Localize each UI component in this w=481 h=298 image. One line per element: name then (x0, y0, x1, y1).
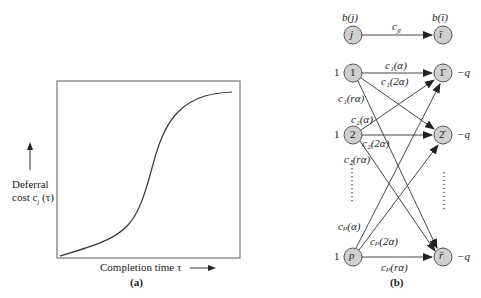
y-axis-label-arg: (τ) (42, 191, 54, 203)
node-1-supply: 1 (334, 66, 340, 78)
node-rbar-label: r̄ (439, 249, 443, 261)
panel-b-label: (b) (390, 276, 403, 288)
plot-frame (57, 81, 240, 258)
deferral-cost-curve (60, 92, 232, 256)
node-p-supply: 1 (334, 250, 340, 262)
legend-arc-cost: cjī (392, 20, 401, 35)
node-1-label: 1 (350, 66, 356, 78)
legend-source-node: j (350, 28, 353, 40)
y-axis-label-text: cost c (12, 191, 37, 203)
x-axis-arrow-head (208, 265, 216, 271)
legend-source-supply: b(j) (342, 11, 358, 23)
node-2bar-label: 2̄ (439, 128, 445, 140)
node-rbar-demand: −q (457, 250, 470, 262)
node-2-label: 2 (350, 128, 356, 140)
arc-label-cp-alpha: cₚ(α) (338, 220, 360, 233)
arc-cost-sub: jī (397, 27, 401, 35)
legend-sink-node: ī (439, 28, 442, 40)
y-axis-label-sub: j (37, 198, 39, 206)
node-2bar-demand: −q (457, 128, 470, 140)
arc-label-c2-ralpha: c₂(rα) (344, 153, 370, 165)
arc-label-cp-ralpha: cₚ(rα) (381, 261, 408, 274)
ellipsis-dots (352, 160, 444, 212)
arc-label-c1-ralpha: c₁(rα) (338, 92, 364, 104)
panel-a-label: (a) (130, 276, 143, 288)
node-1bar-demand: −q (457, 66, 470, 78)
y-axis-label-line1: Deferral (12, 178, 49, 190)
y-axis-label-line2: cost cj (τ) (12, 191, 54, 206)
arc-label-c2-2alpha: c₂(2α) (362, 137, 389, 149)
arc-label-c1-2alpha: c₁(2α) (381, 75, 408, 87)
x-axis-label: Completion time τ (100, 261, 181, 273)
arc-label-c1-alpha: c₁(α) (385, 59, 407, 71)
y-axis-arrow-head (27, 142, 33, 150)
network-arcs (356, 73, 440, 257)
node-p-label: p (349, 249, 355, 261)
node-2-supply: 1 (334, 128, 340, 140)
arc-label-c2-alpha: c₂(α) (351, 113, 373, 125)
deferral-cost-plot (27, 81, 240, 271)
legend-sink-supply: b(ī) (432, 11, 448, 23)
figure-canvas (0, 0, 481, 298)
node-1bar-label: 1̄ (439, 66, 445, 78)
arc-label-cp-2alpha: cₚ(2α) (370, 235, 398, 248)
